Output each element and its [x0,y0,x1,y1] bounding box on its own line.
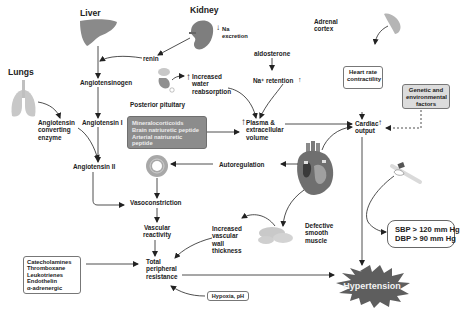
renin-label: renin [143,55,159,62]
total-peripheral-resistance-node: Total peripheral resistance [146,258,178,280]
cardiac-up-arrow: ↑ [378,119,382,126]
liver-icon [80,19,117,46]
hypertension-pathophysiology-diagram: Liver Kidney Lungs Adrenal cortex Poster… [0,0,464,311]
liver-label: Liver [80,8,101,18]
increased-wall-thickness-node: Increased vascular wall thickness [212,225,242,255]
smooth-muscle-icon [258,227,293,244]
lungs-icon [11,80,35,117]
defective-smooth-muscle-node: Defective smooth muscle [305,222,333,244]
genetic-environmental-factors-box: Genetic and environmental factors [402,84,450,109]
posterior-pituitary-label: Posterior pituitary [130,101,185,108]
angiotensinogen-node: Angiotensinogen [80,79,132,86]
kidney-label: Kidney [190,5,219,15]
increased-water-reabsorption-node: Increased water reabsorption [192,73,231,95]
ace-node: Angiotensin converting enzyme [38,119,75,141]
blood-vessel-cross-section-icon [146,155,168,177]
blood-pressure-measurement-icon [392,162,420,182]
vasoactive-mediators-box: Catecholamines Thromboxane Leukotrienes … [23,256,81,294]
adrenal-cortex-icon [384,14,401,34]
autoregulation-node: Autoregulation [219,161,264,168]
posterior-pituitary-icon [158,68,174,92]
heart-rate-contractility-box: Heart rate contractility [343,66,383,89]
cardiac-output-node: Cardiac output [355,120,378,135]
plasma-up-arrow: ↑ [241,116,246,128]
plasma-volume-node: Plasma & extracellular volume [246,119,284,141]
heart-icon [297,141,333,195]
hypertension-label: Hypertension [332,281,412,291]
vascular-reactivity-node: Vascular reactivity [143,224,171,239]
aldosterone-node: aldosterone [254,50,290,57]
kidney-icon [189,21,213,50]
adrenal-cortex-label: Adrenal cortex [314,18,338,33]
vasoconstriction-node: Vasoconstriction [130,199,182,206]
na-excretion-label: Na excretion [222,26,248,40]
lungs-label: Lungs [8,67,34,77]
water-up-arrow: ↑ [186,71,191,83]
na-excretion-down-arrow: ↓ [216,24,220,31]
hypoxia-ph-box: Hypoxia, pH [207,291,249,301]
blood-pressure-threshold-box: SBP > 120 mm Hg DBP > 90 mm Hg [387,220,455,248]
na-retention-node: Na⁺ retention [253,77,293,84]
hormones-box: Mineralocorticoids Brain natriuretic pep… [127,116,207,149]
angiotensin-i-node: Angiotensin I [82,119,122,126]
angiotensin-ii-node: Angiotensin II [73,163,115,170]
na-retention-up-arrow: ↑ [298,76,302,83]
